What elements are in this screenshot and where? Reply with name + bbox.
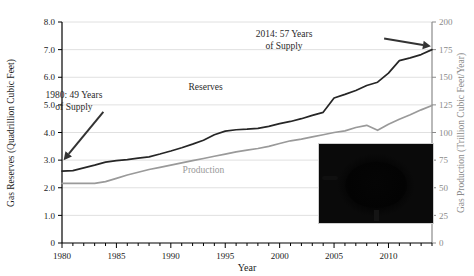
left-tick-label: 2.0 [44,183,56,193]
chart-annotations: 1980: 49 Yearsof Supply2014: 57 Yearsof … [46,29,431,160]
series-label-reserves: Reserves [188,82,223,92]
right-axis-ticks: 0255075100125150175200 [432,17,453,248]
right-tick-label: 125 [439,100,453,110]
right-tick-label: 150 [439,72,453,82]
burner-stem [374,210,380,221]
burner-center-cap [345,162,407,208]
annotation-line: 2014: 57 Years [256,29,313,39]
x-tick-label: 1980 [53,251,72,261]
left-tick-label: 7.0 [44,45,56,55]
series-label-production: Production [183,165,225,175]
right-tick-label: 175 [439,45,453,55]
right-tick-label: 25 [439,211,449,221]
left-tick-label: 5.0 [44,100,56,110]
annotation-line: of Supply [55,102,92,112]
gas-reserves-production-chart: 01.02.03.04.05.06.07.08.0 02550751001251… [0,0,474,276]
right-tick-label: 100 [439,128,453,138]
left-tick-label: 3.0 [44,155,56,165]
annotation-line: 1980: 49 Years [46,90,103,100]
annotation-2014-text: 2014: 57 Yearsof Supply [256,29,313,51]
x-axis-title: Year [238,262,257,273]
left-tick-label: 1.0 [44,211,56,221]
burner-igniter [322,176,338,180]
left-tick-label: 4.0 [44,128,56,138]
bottom-axis-ticks: 1980198519901995200020052010 [53,243,432,261]
right-tick-label: 200 [439,17,453,27]
right-axis-title: Gas Production (Trillion Cubic Feet/Year… [456,53,467,213]
x-tick-label: 2000 [271,251,290,261]
annotation-line: of Supply [265,41,302,51]
x-tick-label: 2010 [379,251,398,261]
annotation-2014-arrow-shaft [384,39,423,45]
left-tick-label: 6.0 [44,72,56,82]
x-tick-label: 1990 [162,251,181,261]
x-tick-label: 1985 [107,251,126,261]
annotation-2014-arrow-head [422,41,431,49]
x-tick-label: 1995 [216,251,235,261]
right-tick-label: 75 [439,155,449,165]
burner-photo-background [319,144,433,223]
gas-burner-photo [318,143,434,224]
right-tick-label: 50 [439,183,449,193]
left-tick-label: 0 [51,238,56,248]
right-tick-label: 0 [439,238,444,248]
chart-canvas: 01.02.03.04.05.06.07.08.0 02550751001251… [0,0,474,276]
left-tick-label: 8.0 [44,17,56,27]
left-axis-title: Gas Reserves (Quadrillion Cubic Feet) [6,59,17,207]
x-tick-label: 2005 [325,251,344,261]
left-axis-ticks: 01.02.03.04.05.06.07.08.0 [44,17,62,248]
